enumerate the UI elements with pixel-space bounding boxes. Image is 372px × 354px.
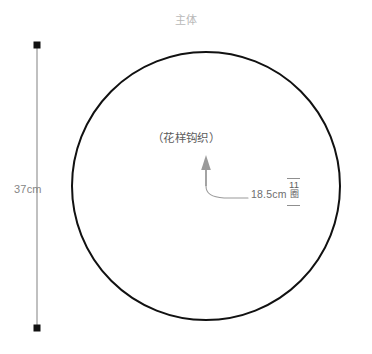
pattern-stitch-label: （花样钩织） [0,133,372,145]
height-dimension-label: 37cm [14,184,42,195]
direction-arrow [201,155,211,186]
height-dimension-top-terminator [34,42,41,49]
page-title: 主体 [0,15,372,26]
rounds-count-unit: 圈 [286,190,302,199]
radius-leader-line [206,186,248,198]
radius-dimension-label: 18.5cm [251,189,287,200]
rounds-count-marker: 11 圈 [286,180,302,199]
crochet-pattern-diagram: 主体 37cm （花样钩织） 18.5cm 11 圈 [0,0,372,354]
height-dimension-bottom-terminator [34,325,41,332]
direction-arrowhead [201,155,211,170]
diagram-canvas [0,0,372,354]
